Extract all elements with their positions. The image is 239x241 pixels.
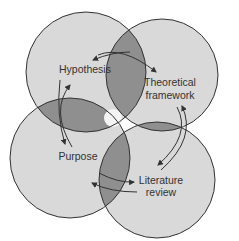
label-theoretical-line1: Theoretical (144, 76, 196, 88)
label-literature-line2: review (146, 186, 177, 198)
label-hypothesis: Hypothesis (59, 63, 111, 75)
label-theoretical-line2: framework (145, 89, 195, 101)
label-purpose: Purpose (58, 150, 97, 162)
label-literature-line1: Literature (139, 174, 184, 186)
diagram-canvas: Hypothesis Theoretical framework Purpose… (0, 0, 239, 241)
